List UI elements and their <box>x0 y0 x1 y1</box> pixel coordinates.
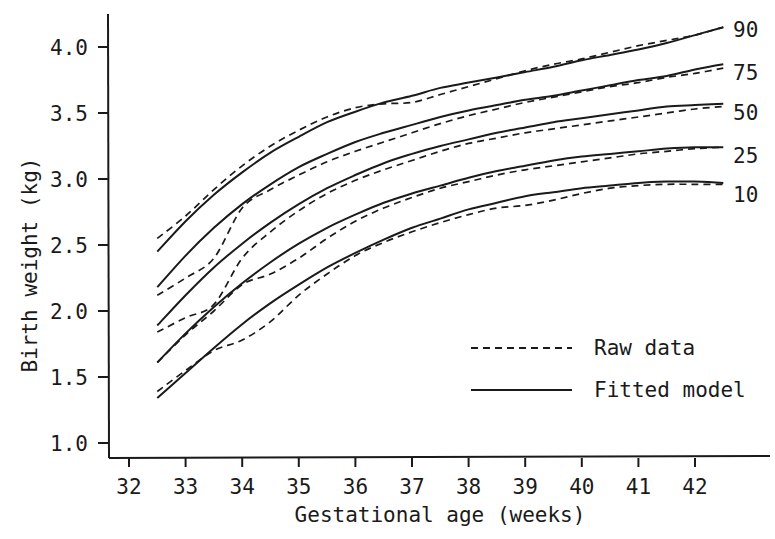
y-tick-label: 2.5 <box>50 234 88 258</box>
y-tick-label: 2.0 <box>50 300 88 324</box>
raw-data-curve-10 <box>157 184 723 391</box>
legend-fitted-label: Fitted model <box>594 378 746 402</box>
x-tick-label: 39 <box>513 475 538 499</box>
legend: Raw data Fitted model <box>471 336 746 402</box>
legend-raw-label: Raw data <box>594 336 695 360</box>
fitted-curve-25 <box>157 147 723 362</box>
y-tick-label: 3.5 <box>50 102 88 126</box>
fitted-curve-75 <box>157 64 723 287</box>
y-tick-label: 3.0 <box>50 168 88 192</box>
y-tick-label: 4.0 <box>50 36 88 60</box>
x-tick-label: 38 <box>456 475 481 499</box>
x-tick-label: 33 <box>173 475 198 499</box>
y-tick-label: 1.0 <box>50 432 88 456</box>
raw-data-curve-25 <box>157 147 723 362</box>
x-tick-label: 36 <box>343 475 368 499</box>
y-axis-title: Birth weight (kg) <box>18 158 42 373</box>
percentile-label-25: 25 <box>733 144 758 168</box>
x-tick-label: 40 <box>569 475 594 499</box>
x-tick-label: 37 <box>399 475 424 499</box>
y-axis-line <box>108 14 109 458</box>
percentile-label-75: 75 <box>733 61 758 85</box>
raw-data-curve-75 <box>157 68 723 295</box>
percentile-label-90: 90 <box>733 18 758 42</box>
x-tick-label: 41 <box>626 475 651 499</box>
x-tick-label: 42 <box>682 475 707 499</box>
fitted-curve-10 <box>157 181 723 398</box>
x-axis-title: Gestational age (weeks) <box>295 503 586 527</box>
x-axis-line <box>109 456 770 458</box>
percentile-label-50: 50 <box>733 101 758 125</box>
x-tick-label: 32 <box>116 475 141 499</box>
fitted-curve-50 <box>157 104 723 326</box>
x-tick-label: 35 <box>286 475 311 499</box>
y-ticks: 1.01.52.02.53.03.54.0 <box>50 36 108 456</box>
percentile-labels: 9075502510 <box>733 18 758 207</box>
percentile-label-10: 10 <box>733 183 758 207</box>
axes: 1.01.52.02.53.03.54.0 323334353637383940… <box>50 14 770 499</box>
x-tick-label: 34 <box>230 475 255 499</box>
x-ticks: 3233343536373839404142 <box>116 458 707 499</box>
y-tick-label: 1.5 <box>50 366 88 390</box>
percentile-chart: 1.01.52.02.53.03.54.0 323334353637383940… <box>0 0 775 539</box>
